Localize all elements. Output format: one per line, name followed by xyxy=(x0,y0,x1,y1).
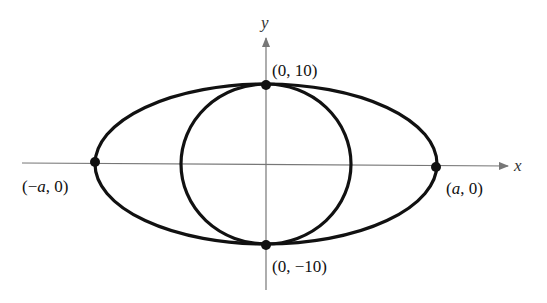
label-bottom: (0, −10) xyxy=(272,257,327,276)
label-left: (−a, 0) xyxy=(22,177,68,196)
label-top: (0, 10) xyxy=(272,61,317,80)
label-right: (a, 0) xyxy=(446,179,483,198)
point-right xyxy=(431,162,441,172)
ellipse-circle-diagram: x y (0, 10) (0, −10) (−a, 0) (a, 0) xyxy=(0,0,547,303)
point-top xyxy=(261,80,271,90)
x-axis-label: x xyxy=(513,156,522,175)
point-left xyxy=(90,157,100,167)
y-axis-label: y xyxy=(259,13,269,32)
point-bottom xyxy=(261,240,271,250)
